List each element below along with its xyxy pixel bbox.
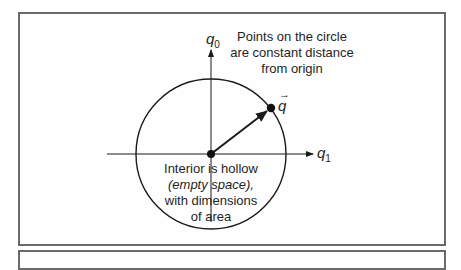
annotation-line: from origin (222, 61, 362, 77)
interior-annotation: Interior is hollow (empty space), with d… (151, 161, 271, 225)
vector-q-arrow (211, 111, 267, 154)
annotation-line: are constant distance (222, 45, 362, 61)
annotation-line: with dimensions (151, 193, 271, 209)
vector-arrow-glyph: → (279, 88, 290, 100)
origin-point (207, 150, 215, 158)
q1-subscript: 1 (325, 153, 331, 164)
vector-q-label: → q (278, 97, 286, 114)
vector-endpoint (267, 104, 275, 112)
annotation-line-italic: (empty space), (151, 177, 271, 193)
annotation-line: Points on the circle (222, 29, 362, 45)
q0-axis-label: q0 (206, 30, 220, 50)
q0-subscript: 0 (214, 39, 220, 50)
annotation-line: Interior is hollow (151, 161, 271, 177)
q1-axis-label: q1 (317, 144, 331, 164)
circle-annotation: Points on the circle are constant distan… (222, 29, 362, 77)
annotation-line: of area (151, 209, 271, 225)
